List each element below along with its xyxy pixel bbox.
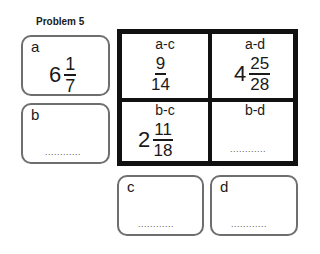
cell-b-c: b-c 2 11 18 <box>122 102 208 166</box>
numerator: 25 <box>249 55 270 75</box>
cell-label: a-c <box>122 36 208 52</box>
fraction: 11 18 <box>153 121 173 159</box>
cell-label: a-d <box>212 36 298 52</box>
denominator: 18 <box>154 141 173 159</box>
cell-a-c: a-c 9 14 <box>122 34 208 98</box>
whole-number: 2 <box>138 127 150 153</box>
numerator: 1 <box>64 55 76 76</box>
denominator: 7 <box>65 76 75 95</box>
box-d-label: d <box>220 178 228 195</box>
box-c-label: c <box>127 178 135 195</box>
box-a: a 6 1 7 <box>21 35 110 96</box>
box-a-label: a <box>31 38 39 55</box>
box-d[interactable]: d ............ <box>210 175 298 236</box>
cell-a-d: a-d 4 25 28 <box>212 34 298 98</box>
box-b[interactable]: b ............ <box>21 103 110 164</box>
fraction: 1 7 <box>64 55 76 95</box>
problem-title: Problem 5 <box>36 16 84 27</box>
answer-blank[interactable]: ............ <box>230 144 266 154</box>
fraction: 25 28 <box>249 55 270 93</box>
whole-number: 4 <box>234 61 246 87</box>
whole-number: 6 <box>49 62 61 88</box>
numerator: 11 <box>153 121 173 141</box>
box-c[interactable]: c ............ <box>117 175 204 236</box>
answer-grid: a-c 9 14 a-d 4 25 28 b-c 2 11 18 b- <box>117 29 298 166</box>
answer-blank[interactable]: ............ <box>138 219 174 229</box>
cell-value: 4 25 28 <box>234 55 270 93</box>
cell-b-d[interactable]: b-d ............ <box>212 102 298 166</box>
answer-blank[interactable]: ............ <box>45 147 81 157</box>
numerator: 9 <box>155 55 166 75</box>
box-b-label: b <box>31 106 39 123</box>
fraction: 9 14 <box>151 55 170 93</box>
denominator: 14 <box>151 75 170 93</box>
cell-label: b-d <box>212 102 298 118</box>
cell-label: b-c <box>122 102 208 118</box>
answer-blank[interactable]: ............ <box>231 219 267 229</box>
box-a-value: 6 1 7 <box>49 55 76 95</box>
denominator: 28 <box>250 75 269 93</box>
cell-value: 9 14 <box>151 55 170 93</box>
cell-value: 2 11 18 <box>138 121 173 159</box>
